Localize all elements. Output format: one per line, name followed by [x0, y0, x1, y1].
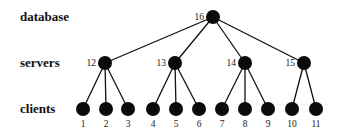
- node-label: 12: [87, 58, 97, 68]
- node-circle-icon: [76, 102, 90, 116]
- edge-14-9: [245, 63, 268, 109]
- node-10: 10: [285, 102, 299, 129]
- edge-16-12: [105, 17, 213, 63]
- node-label: 13: [157, 58, 167, 68]
- node-label: 3: [126, 119, 131, 129]
- edges: [83, 17, 316, 109]
- node-12: 12: [87, 56, 113, 70]
- node-circle-icon: [206, 10, 220, 24]
- edge-13-4: [153, 63, 175, 109]
- node-label: 6: [197, 119, 202, 129]
- node-circle-icon: [192, 102, 206, 116]
- node-6: 6: [192, 102, 206, 129]
- tier-label-servers: servers: [20, 55, 60, 70]
- edge-16-13: [175, 17, 213, 63]
- edge-12-3: [105, 63, 128, 109]
- node-16: 16: [195, 10, 221, 24]
- node-9: 9: [261, 102, 275, 129]
- tier-labels: database servers clients: [20, 9, 69, 116]
- nodes: 16121314151234567891011: [76, 10, 323, 129]
- node-3: 3: [121, 102, 135, 129]
- node-label: 9: [266, 119, 271, 129]
- node-13: 13: [157, 56, 183, 70]
- node-label: 14: [227, 58, 237, 68]
- edge-15-11: [304, 63, 316, 109]
- node-5: 5: [169, 102, 183, 129]
- node-circle-icon: [297, 56, 311, 70]
- edge-15-10: [292, 63, 304, 109]
- node-label: 1: [81, 119, 86, 129]
- edge-13-6: [175, 63, 199, 109]
- node-label: 15: [286, 58, 296, 68]
- node-11: 11: [309, 102, 323, 129]
- node-circle-icon: [215, 102, 229, 116]
- node-circle-icon: [238, 56, 252, 70]
- node-circle-icon: [285, 102, 299, 116]
- node-2: 2: [99, 102, 113, 129]
- node-circle-icon: [99, 102, 113, 116]
- node-label: 7: [220, 119, 225, 129]
- node-circle-icon: [168, 56, 182, 70]
- node-circle-icon: [261, 102, 275, 116]
- edge-14-7: [222, 63, 245, 109]
- node-label: 16: [195, 12, 205, 22]
- client-server-tree-diagram: database servers clients 161213141512345…: [0, 0, 341, 134]
- node-8: 8: [238, 102, 252, 129]
- tier-label-database: database: [20, 9, 69, 24]
- node-label: 2: [104, 119, 109, 129]
- edge-16-14: [213, 17, 245, 63]
- node-7: 7: [215, 102, 229, 129]
- node-circle-icon: [238, 102, 252, 116]
- node-label: 4: [151, 119, 156, 129]
- node-circle-icon: [169, 102, 183, 116]
- node-label: 5: [174, 119, 179, 129]
- node-4: 4: [146, 102, 160, 129]
- node-15: 15: [286, 56, 312, 70]
- node-label: 10: [287, 119, 297, 129]
- node-circle-icon: [309, 102, 323, 116]
- tier-label-clients: clients: [20, 101, 55, 116]
- edge-12-1: [83, 63, 105, 109]
- node-14: 14: [227, 56, 253, 70]
- node-circle-icon: [98, 56, 112, 70]
- node-circle-icon: [146, 102, 160, 116]
- node-1: 1: [76, 102, 90, 129]
- node-label: 8: [243, 119, 248, 129]
- edge-16-15: [213, 17, 304, 63]
- node-label: 11: [311, 119, 320, 129]
- node-circle-icon: [121, 102, 135, 116]
